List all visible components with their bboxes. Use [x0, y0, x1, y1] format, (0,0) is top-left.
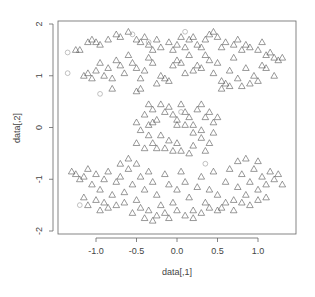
- point-triangle: [170, 111, 177, 117]
- point-triangle: [259, 39, 266, 45]
- point-triangle: [251, 166, 258, 172]
- point-triangle: [141, 186, 148, 192]
- point-triangle: [125, 28, 132, 34]
- point-triangle: [267, 168, 274, 174]
- point-triangle: [141, 145, 148, 151]
- point-triangle: [137, 85, 144, 91]
- point-triangle: [255, 186, 262, 192]
- point-triangle: [279, 54, 286, 60]
- point-triangle: [145, 168, 152, 174]
- point-triangle: [97, 60, 104, 66]
- x-axis-title: data[,1]: [162, 267, 192, 277]
- point-triangle: [133, 36, 140, 42]
- point-triangle: [247, 80, 254, 86]
- point-triangle: [202, 52, 209, 58]
- point-triangle: [206, 140, 213, 146]
- point-triangle: [190, 142, 197, 148]
- point-triangle: [162, 210, 169, 216]
- point-triangle: [145, 54, 152, 60]
- point-triangle: [162, 171, 169, 177]
- point-triangle: [174, 41, 181, 47]
- point-triangle: [234, 36, 241, 42]
- y-tick-label: 1: [34, 73, 44, 78]
- point-circle: [65, 71, 70, 76]
- point-triangle: [279, 181, 286, 187]
- y-axis-title: data[,2]: [12, 113, 22, 143]
- point-triangle: [234, 75, 241, 81]
- point-triangle: [97, 186, 104, 192]
- point-triangle: [206, 186, 213, 192]
- point-triangle: [230, 207, 237, 213]
- point-triangle: [214, 114, 221, 120]
- point-triangle: [178, 168, 185, 174]
- point-triangle: [166, 137, 173, 143]
- point-triangle: [125, 155, 132, 161]
- point-triangle: [101, 199, 108, 205]
- point-triangle: [255, 47, 262, 53]
- point-triangle: [174, 186, 181, 192]
- point-triangle: [158, 44, 165, 50]
- point-triangle: [182, 70, 189, 76]
- point-triangle: [149, 179, 156, 185]
- y-tick-label: 0: [34, 125, 44, 130]
- point-triangle: [182, 122, 189, 128]
- point-triangle: [202, 199, 209, 205]
- point-triangle: [85, 202, 92, 208]
- point-triangle: [133, 197, 140, 203]
- x-tick-label: -0.5: [129, 246, 145, 256]
- point-triangle: [186, 194, 193, 200]
- point-triangle: [170, 147, 177, 153]
- point-triangle: [251, 72, 258, 78]
- point-triangle: [166, 181, 173, 187]
- point-triangle: [214, 60, 221, 66]
- point-triangle: [145, 132, 152, 138]
- point-triangle: [239, 171, 246, 177]
- x-tick-label: 0.0: [171, 246, 184, 256]
- point-triangle: [81, 194, 88, 200]
- x-tick-label: 0.5: [211, 246, 224, 256]
- point-triangle: [222, 199, 229, 205]
- point-triangle: [141, 111, 148, 117]
- point-triangle: [125, 166, 132, 172]
- point-triangle: [158, 72, 165, 78]
- x-axis: -1.0-0.50.00.51.0: [88, 238, 264, 256]
- points-layer: [65, 28, 285, 223]
- point-circle: [179, 110, 184, 115]
- point-triangle: [158, 101, 165, 107]
- scatter-plot: -1.0-0.50.00.51.0 -2-1012 data[,1] data[…: [0, 0, 315, 297]
- point-triangle: [263, 181, 270, 187]
- point-triangle: [182, 179, 189, 185]
- point-triangle: [113, 57, 120, 63]
- point-triangle: [129, 210, 136, 216]
- point-triangle: [133, 140, 140, 146]
- point-triangle: [234, 184, 241, 190]
- point-triangle: [109, 75, 116, 81]
- point-triangle: [243, 155, 250, 161]
- point-triangle: [226, 166, 233, 172]
- point-triangle: [259, 62, 266, 68]
- point-triangle: [97, 207, 104, 213]
- point-triangle: [129, 181, 136, 187]
- point-circle: [65, 50, 70, 55]
- point-triangle: [93, 67, 100, 73]
- point-triangle: [105, 168, 112, 174]
- point-triangle: [101, 176, 108, 182]
- point-triangle: [121, 70, 128, 76]
- point-triangle: [105, 36, 112, 42]
- point-triangle: [239, 83, 246, 89]
- point-triangle: [259, 173, 266, 179]
- point-triangle: [190, 34, 197, 40]
- point-triangle: [141, 67, 148, 73]
- point-triangle: [239, 199, 246, 205]
- point-triangle: [149, 140, 156, 146]
- point-triangle: [230, 54, 237, 60]
- point-triangle: [186, 150, 193, 156]
- point-triangle: [93, 197, 100, 203]
- y-axis: -2-1012: [34, 21, 53, 235]
- point-triangle: [145, 101, 152, 107]
- y-tick-label: -2: [34, 227, 44, 235]
- point-triangle: [137, 75, 144, 81]
- point-circle: [77, 203, 82, 208]
- point-triangle: [247, 202, 254, 208]
- point-triangle: [210, 168, 217, 174]
